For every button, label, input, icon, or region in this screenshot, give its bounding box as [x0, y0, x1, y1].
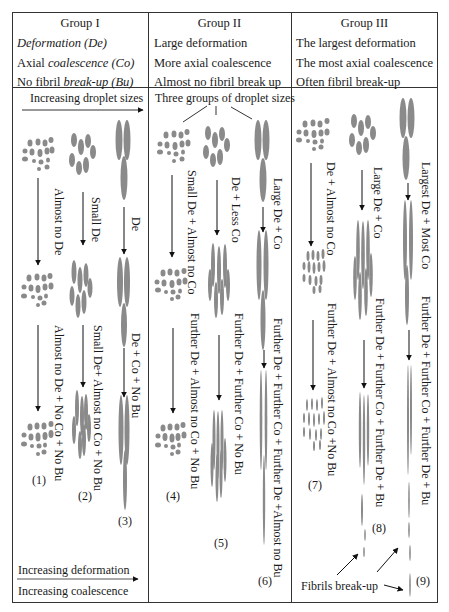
droplets-col1-top: [22, 137, 55, 171]
droplets-col5-top: [203, 126, 230, 167]
col3-step2-label: De + Co + No Bu: [130, 333, 142, 418]
col2-step1-label: Small De: [90, 197, 102, 242]
droplets-col7-bottom: [303, 397, 325, 451]
fibrils-col8-bottom: [359, 392, 369, 557]
col4-step2-label: Further De + Almost no Co + No Bu: [189, 313, 201, 489]
col4-step1-label: Small De + Almost no Co: [186, 170, 198, 294]
sample-label-4: (4): [166, 490, 180, 502]
sample-label-2: (2): [78, 490, 92, 502]
col7-step1-label: De + Almost no Co: [325, 162, 337, 255]
col2-step2-label: Small De+ Almost no Co + No Bu: [92, 325, 104, 491]
sample-label-7: (7): [308, 479, 322, 491]
fibrils-col9-bottom: [407, 365, 412, 597]
droplets-col7-top: [296, 118, 330, 151]
sample-label-5: (5): [214, 537, 228, 549]
droplets-col2-mid: [70, 260, 93, 318]
droplets-col6-mid: [257, 230, 269, 350]
droplets-col8-top: [349, 114, 376, 155]
droplets-col5-mid: [208, 243, 230, 318]
col3-step1-label: De: [130, 217, 142, 231]
col6-step1-label: Large De + Co: [272, 178, 284, 250]
droplets-col9-mid: [403, 200, 413, 325]
droplets-col5-bottom: [211, 410, 227, 502]
sample-label-8: (8): [372, 522, 386, 534]
fan-lines-icon: [183, 106, 252, 122]
col6-step2-label: Further De + Further Co + Further De +Al…: [272, 318, 284, 578]
droplets-col7-mid: [303, 249, 326, 294]
droplets-col2-top: [69, 133, 96, 175]
sample-label-9: (9): [416, 575, 430, 587]
col5-step1-label: De + Less Co: [230, 177, 242, 243]
droplets-col6-top: [255, 120, 270, 202]
fibrils-col6-bottom: [260, 370, 268, 545]
col5-step2-label: Further De + Further Co + No Bu: [233, 313, 245, 475]
droplets-col2-bottom: [72, 390, 91, 459]
droplets-col4-top: [157, 129, 191, 163]
legend-increasing-coalescence: Increasing coalescence: [18, 585, 128, 597]
fibrils-breakup-annotation: Fibrils break-up: [301, 580, 378, 592]
droplets-col3-bottom: [119, 395, 130, 510]
droplets-col4-mid: [155, 268, 188, 301]
col1-step1-label: Almost no De: [53, 188, 65, 255]
legend-increasing-deformation: Increasing deformation: [18, 564, 130, 576]
col7-step2-label: Further De + Almost no Co +No Bu: [326, 303, 338, 476]
col8-step1-label: Large De + Co: [372, 167, 384, 239]
droplets-col4-bottom: [155, 422, 187, 456]
sample-label-6: (6): [258, 575, 272, 587]
sample-label-3: (3): [118, 515, 132, 527]
droplets-col1-bottom: [21, 421, 54, 456]
col8-step2-label: Further De + Further Co + Further De + B…: [374, 298, 386, 507]
droplets-col1-mid: [21, 273, 54, 307]
sample-label-1: (1): [32, 474, 46, 486]
col9-step1-label: Largest De + Most Co: [420, 162, 432, 269]
droplets-col8-mid: [353, 220, 373, 320]
col9-step2-label: Further De + Further Co + Further De + B…: [420, 296, 432, 505]
col1-step2-label: Almost no De + No Co + No Bu: [53, 325, 65, 481]
droplets-col3-top: [116, 120, 131, 200]
droplets-col9-top: [400, 98, 415, 180]
